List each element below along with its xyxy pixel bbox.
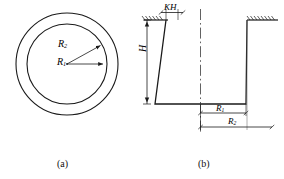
circle-center-dot: [66, 63, 68, 65]
h-arrow-bottom: [145, 98, 149, 103]
caption-panel-b: (b): [198, 158, 210, 169]
label-top-radius: R2: [228, 117, 236, 127]
label-depth: H: [138, 45, 148, 52]
label-outer-radius: R2: [58, 39, 67, 49]
outer-radius-arrow: [67, 46, 101, 65]
figure-drawing: [0, 0, 284, 179]
figure-container: R2 R1 KH H R1 R2 (a) (b): [0, 0, 284, 179]
caption-panel-a: (a): [57, 158, 68, 169]
label-bottom-radius: R1: [216, 104, 224, 114]
label-top-offset: KH: [164, 3, 177, 12]
h-arrow-top: [145, 22, 149, 27]
panel-a-group: [16, 13, 118, 115]
pit-section-outline: [155, 20, 247, 104]
panel-b-group: [142, 9, 278, 132]
label-inner-radius: R1: [57, 57, 66, 67]
